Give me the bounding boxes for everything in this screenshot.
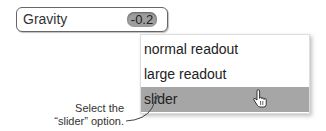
callout-arrow-icon	[0, 0, 326, 131]
